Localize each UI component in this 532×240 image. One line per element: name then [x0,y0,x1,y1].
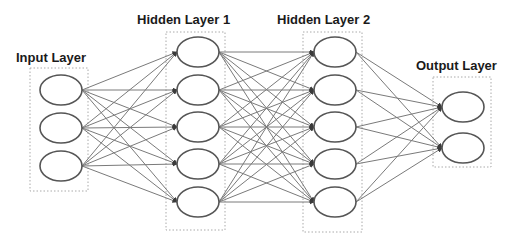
connection-edge [82,52,177,166]
connection-edge [356,107,442,164]
output-layer-label: Output Layer [416,58,497,73]
connection-edge [356,107,442,202]
neuron-node [40,113,82,143]
hidden-layer-2-label: Hidden Layer 2 [277,12,370,27]
neuron-node [177,37,219,67]
neuron-node [442,92,484,122]
neuron-node [314,187,356,217]
connection-edge [356,107,442,127]
input-layer-label: Input Layer [16,50,86,65]
neuron-node [40,75,82,105]
neuron-node [177,187,219,217]
neuron-node [177,149,219,179]
neuron-node [314,149,356,179]
neuron-node [314,112,356,142]
neuron-node [177,112,219,142]
hidden-layer-1-label: Hidden Layer 1 [137,12,230,27]
neural-network-diagram: Input Layer Hidden Layer 1 Hidden Layer … [0,0,532,240]
neuron-node [442,133,484,163]
connection-edge [356,127,442,148]
neuron-node [314,37,356,67]
connection-edge [82,52,177,90]
neuron-node [314,75,356,105]
connection-edge [82,127,177,166]
connection-edge [82,164,177,166]
neuron-node [177,75,219,105]
neuron-node [40,151,82,181]
connection-edge [82,166,177,202]
